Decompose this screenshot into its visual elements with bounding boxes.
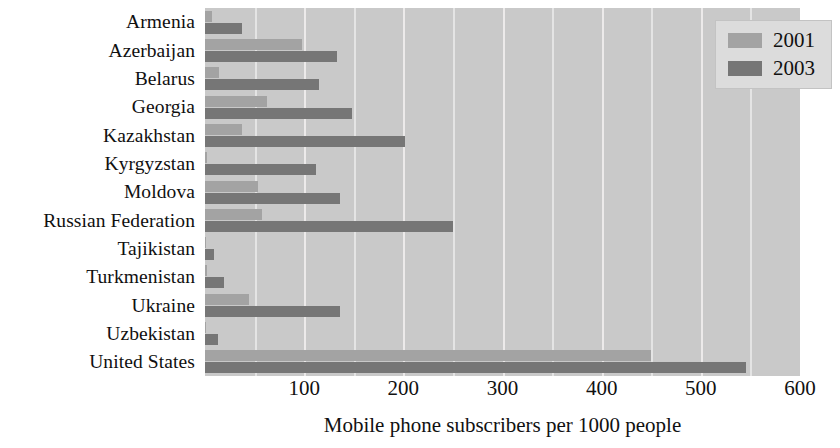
chart-figure: ArmeniaAzerbaijanBelarusGeorgiaKazakhsta… <box>0 0 840 448</box>
x-tick-label: 200 <box>388 378 420 399</box>
category-label: Georgia <box>0 93 200 121</box>
bar-2003 <box>205 79 319 90</box>
x-tick-label: 500 <box>685 378 717 399</box>
x-axis-ticks: 100200300400500600 <box>205 378 800 408</box>
bar-group <box>205 93 800 121</box>
bar-2003 <box>205 334 218 345</box>
bar-group <box>205 263 800 291</box>
bar-2003 <box>205 249 214 260</box>
bar-2001 <box>205 294 249 305</box>
bar-group <box>205 36 800 64</box>
bar-2001 <box>205 67 219 78</box>
bar-2003 <box>205 362 746 373</box>
bar-2003 <box>205 51 337 62</box>
bar-2001 <box>205 181 258 192</box>
bar-2001 <box>205 322 206 333</box>
category-axis-labels: ArmeniaAzerbaijanBelarusGeorgiaKazakhsta… <box>0 8 200 376</box>
bar-2001 <box>205 237 206 248</box>
legend-swatch-2003 <box>728 61 762 76</box>
chart-legend: 20012003 <box>715 20 832 89</box>
x-tick-label: 100 <box>288 378 320 399</box>
bar-2001 <box>205 11 212 22</box>
category-label: Russian Federation <box>0 206 200 234</box>
bar-2003 <box>205 221 453 232</box>
category-label: Uzbekistan <box>0 319 200 347</box>
bar-group <box>205 150 800 178</box>
x-tick-label: 400 <box>586 378 618 399</box>
bar-group <box>205 206 800 234</box>
category-label: Tajikistan <box>0 235 200 263</box>
category-label: Kyrgyzstan <box>0 150 200 178</box>
bar-2003 <box>205 306 340 317</box>
category-label: Kazakhstan <box>0 121 200 149</box>
bar-group <box>205 8 800 36</box>
legend-label: 2003 <box>773 58 815 79</box>
category-label: Armenia <box>0 8 200 36</box>
bar-2003 <box>205 164 316 175</box>
bar-2003 <box>205 136 405 147</box>
category-label: Moldova <box>0 178 200 206</box>
category-label: Azerbaijan <box>0 36 200 64</box>
bar-2001 <box>205 39 302 50</box>
category-label: United States <box>0 348 200 376</box>
category-label: Ukraine <box>0 291 200 319</box>
bar-2001 <box>205 152 207 163</box>
bar-2003 <box>205 193 340 204</box>
category-label: Turkmenistan <box>0 263 200 291</box>
x-axis-title: Mobile phone subscribers per 1000 people <box>205 415 800 436</box>
bar-2001 <box>205 350 651 361</box>
bar-2001 <box>205 124 242 135</box>
legend-label: 2001 <box>773 30 815 51</box>
bar-2003 <box>205 108 352 119</box>
x-tick-label: 600 <box>784 378 816 399</box>
bar-group <box>205 319 800 347</box>
plot-area <box>205 8 800 376</box>
bar-group <box>205 235 800 263</box>
bar-group <box>205 121 800 149</box>
bar-series-container <box>205 8 800 376</box>
x-tick-label: 300 <box>487 378 519 399</box>
bar-group <box>205 178 800 206</box>
bar-2003 <box>205 277 224 288</box>
legend-item[interactable]: 2003 <box>728 58 815 79</box>
bar-2003 <box>205 23 242 34</box>
bar-2001 <box>205 265 207 276</box>
bar-group <box>205 348 800 376</box>
bar-2001 <box>205 209 262 220</box>
category-label: Belarus <box>0 65 200 93</box>
bar-2001 <box>205 96 267 107</box>
legend-swatch-2001 <box>728 33 762 48</box>
legend-item[interactable]: 2001 <box>728 30 815 51</box>
bar-group <box>205 291 800 319</box>
bar-group <box>205 65 800 93</box>
